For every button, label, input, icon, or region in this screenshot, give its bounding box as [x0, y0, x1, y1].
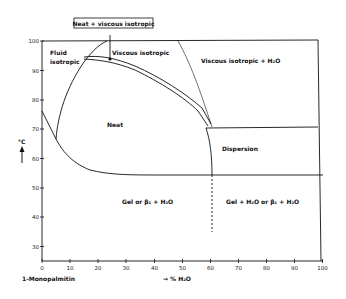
x-tick-10: 10 [67, 265, 74, 271]
label-neat: Neat [107, 121, 123, 128]
y-tick-40: 40 [32, 214, 39, 220]
phase-diagram: 100 90 80 70 60 50 40 30 0 10 20 30 40 5… [0, 0, 346, 299]
x-tick-60: 60 [207, 265, 214, 271]
x-tick-40: 40 [151, 265, 158, 271]
x-axis-label: → % H₂O [163, 275, 191, 282]
x-tick-100: 100 [317, 265, 328, 271]
label-dispersion: Dispersion [222, 145, 258, 153]
label-fluid: Fluid [50, 49, 67, 56]
label-gel-left: Gel or β₁ + H₂O [122, 198, 173, 206]
x-tick-80: 80 [263, 265, 270, 271]
y-tick-70: 70 [32, 126, 39, 132]
x-tick-20: 20 [95, 265, 102, 271]
top-border [42, 40, 318, 41]
x-tick-90: 90 [291, 265, 298, 271]
viscous-h2o-boundary [178, 41, 212, 127]
neat-lower-line [84, 59, 208, 126]
label-isotropic: isotropic [50, 58, 80, 66]
y-tick-80: 80 [32, 97, 39, 103]
y-tick-60: 60 [32, 156, 39, 162]
y-tick-90: 90 [32, 68, 39, 74]
y-axis-label: °C [18, 138, 26, 145]
up-arrow-icon [20, 146, 25, 163]
label-viscous-isotropic-h2o: Viscous isotropic + H₂O [201, 57, 280, 65]
x-tick-50: 50 [179, 265, 186, 271]
x-tick-0: 0 [40, 265, 44, 271]
label-viscous-isotropic: Viscous isotropic [112, 49, 170, 57]
origin-label: 1-Monopalmitin [22, 275, 75, 283]
neat-upper-line [84, 56, 211, 124]
dispersion-upper-boundary [206, 127, 318, 128]
x-tick-70: 70 [235, 265, 242, 271]
x-tick-30: 30 [123, 265, 130, 271]
y-tick-30: 30 [32, 244, 39, 250]
solidus-curve [42, 111, 323, 175]
right-border [318, 40, 321, 261]
dispersion-left-boundary [206, 128, 212, 175]
y-tick-100: 100 [29, 38, 40, 44]
y-tick-50: 50 [32, 185, 39, 191]
annotation-point [108, 57, 111, 60]
label-gel-right: Gel + H₂O or β₁ + H₂O [226, 198, 299, 206]
annotation-label: Neat + viscous isotropic [73, 20, 155, 28]
